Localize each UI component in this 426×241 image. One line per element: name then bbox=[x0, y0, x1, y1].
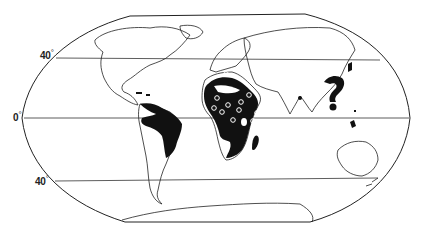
degree-symbol: ° bbox=[18, 110, 21, 119]
degree-symbol: ° bbox=[51, 48, 54, 57]
shaded-southeast-asia bbox=[330, 104, 337, 111]
degree-symbol: ° bbox=[46, 174, 49, 183]
world-map bbox=[0, 0, 426, 241]
latitude-label-equator: 0° bbox=[13, 112, 21, 123]
shaded-india-tip bbox=[298, 96, 302, 100]
shaded-philippines bbox=[354, 110, 356, 112]
latitude-label-40s: 40° bbox=[35, 176, 49, 187]
lat-40s-value: 40 bbox=[35, 176, 46, 187]
lake-victoria bbox=[241, 118, 247, 126]
latitude-label-40n: 40° bbox=[40, 50, 54, 61]
lat-40n-value: 40 bbox=[40, 50, 51, 61]
